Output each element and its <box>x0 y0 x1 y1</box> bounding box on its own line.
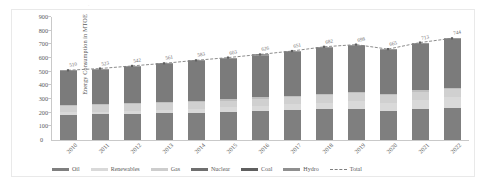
legend-swatch <box>52 168 69 171</box>
y-axis-tick-label: 400 <box>22 82 48 88</box>
legend-item-total[interactable]: Total <box>330 166 362 172</box>
legend-swatch <box>191 168 208 171</box>
total-data-label: 523 <box>100 59 109 66</box>
total-line-marker <box>227 56 229 58</box>
y-axis-tick-label: 100 <box>22 123 48 129</box>
total-line-marker <box>131 65 133 67</box>
x-axis-label: 2010 <box>58 142 78 162</box>
total-line-marker <box>259 53 261 55</box>
legend-label: Total <box>350 166 362 172</box>
x-axis-label: 2018 <box>314 142 334 162</box>
x-axis-label: 2013 <box>154 142 174 162</box>
total-line-marker <box>355 44 357 46</box>
x-axis-line <box>51 140 469 141</box>
chart-container: · Energy Consumption in MTOE 90080070060… <box>0 0 487 187</box>
total-line-marker <box>67 69 69 71</box>
y-axis-tick-label: 800 <box>22 28 48 34</box>
total-line-marker <box>195 59 197 61</box>
y-axis-tick-label: 300 <box>22 96 48 102</box>
x-axis-label: 2015 <box>218 142 238 162</box>
legend-item-coal[interactable]: Coal <box>241 166 272 172</box>
legend-label: Gas <box>171 166 180 172</box>
legend-label: Renewables <box>111 166 140 172</box>
total-line-marker <box>451 37 453 39</box>
total-data-label: 603 <box>228 48 237 55</box>
x-axis-label: 2014 <box>186 142 206 162</box>
y-axis-tick-label: 700 <box>22 41 48 47</box>
y-axis-tick-label: 900 <box>22 14 48 20</box>
y-axis-tick-label: 200 <box>22 110 48 116</box>
legend-item-oil[interactable]: Oil <box>52 166 80 172</box>
x-axis-label: 2019 <box>346 142 366 162</box>
total-line-marker <box>291 50 293 52</box>
legend-swatch <box>91 168 108 171</box>
y-axis-zero-label: 0 <box>40 136 43 143</box>
x-axis-label: 2022 <box>442 142 462 162</box>
total-line-layer <box>52 17 468 140</box>
legend-swatch <box>151 168 168 171</box>
legend-item-nuclear[interactable]: Nuclear <box>191 166 230 172</box>
legend-label: Coal <box>261 166 272 172</box>
y-axis-tick-label: 500 <box>22 69 48 75</box>
total-line-marker <box>163 62 165 64</box>
legend-label: Oil <box>72 166 80 172</box>
total-line-marker <box>99 67 101 69</box>
legend-item-gas[interactable]: Gas <box>151 166 180 172</box>
x-axis-label: 2017 <box>282 142 302 162</box>
x-axis-label: 2011 <box>90 142 110 162</box>
chart-legend: OilRenewablesGasNuclearCoalHydroTotal <box>52 163 452 175</box>
legend-swatch <box>330 169 347 170</box>
total-line-marker <box>387 48 389 50</box>
total-line-marker <box>323 46 325 48</box>
legend-label: Nuclear <box>211 166 230 172</box>
legend-item-renewables[interactable]: Renewables <box>91 166 140 172</box>
x-axis-label: 2016 <box>250 142 270 162</box>
total-line-marker <box>419 41 421 43</box>
y-axis-line <box>51 17 52 141</box>
legend-swatch <box>283 168 300 171</box>
legend-label: Hydro <box>303 166 318 172</box>
total-data-label: 682 <box>324 37 333 44</box>
plot-area: Energy Consumption in MTOE 9008007006005… <box>52 17 468 140</box>
total-data-label: 713 <box>420 33 429 40</box>
decorative-mark: · <box>88 3 89 8</box>
legend-item-hydro[interactable]: Hydro <box>283 166 318 172</box>
total-data-label: 698 <box>356 35 365 42</box>
legend-swatch <box>241 168 258 171</box>
x-axis-label: 2012 <box>122 142 142 162</box>
x-axis-label: 2021 <box>410 142 430 162</box>
x-axis-label: 2020 <box>378 142 398 162</box>
y-axis-tick-label: 600 <box>22 55 48 61</box>
